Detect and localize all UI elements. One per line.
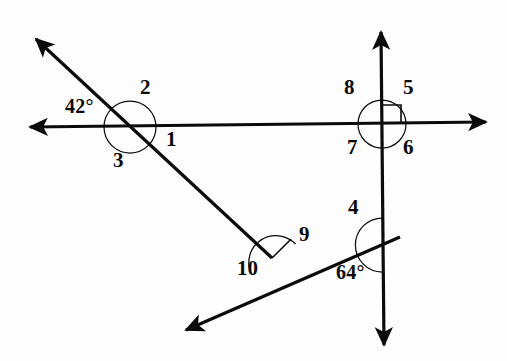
diagonal-line-upper bbox=[36, 39, 272, 258]
right-angle-square bbox=[382, 105, 401, 124]
angle-label-10: 10 bbox=[237, 258, 258, 279]
angle-label-5: 5 bbox=[403, 77, 414, 98]
degree-label-42: 42° bbox=[65, 96, 94, 116]
geometry-canvas bbox=[0, 0, 507, 361]
degree-label-64: 64° bbox=[336, 262, 365, 282]
vertical-line bbox=[381, 32, 384, 345]
angle-label-1: 1 bbox=[166, 129, 177, 150]
angle-label-8: 8 bbox=[344, 77, 355, 98]
horizontal-line bbox=[30, 122, 486, 127]
angle-label-4: 4 bbox=[348, 197, 359, 218]
angle-label-6: 6 bbox=[403, 137, 414, 158]
angle-label-9: 9 bbox=[299, 224, 310, 245]
lines-group bbox=[30, 32, 486, 345]
arc-divider-tick-9-10 bbox=[272, 239, 291, 258]
angle-label-3: 3 bbox=[113, 150, 124, 171]
diagonal-line-lower bbox=[186, 237, 400, 330]
geometry-figure: 1 2 3 4 5 6 7 8 9 10 42° 64° bbox=[0, 0, 507, 361]
angle-label-2: 2 bbox=[140, 77, 151, 98]
angle-label-7: 7 bbox=[347, 137, 358, 158]
